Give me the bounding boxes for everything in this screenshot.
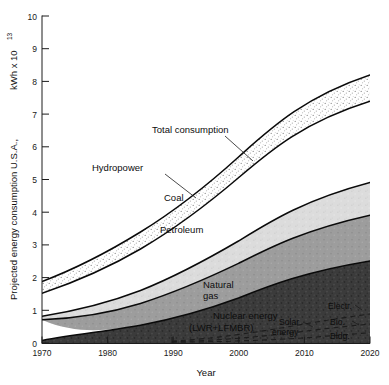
label-hydropower: Hydropower [92,162,143,173]
x-tick-label-1970: 1970 [33,348,52,358]
label-bio: Bio. [330,317,345,327]
x-tick-labels: 1970 1980 1990 2000 2010 2020 [33,348,380,358]
y-axis-units: kWh x 10 [8,50,19,90]
y-axis-title: Projected energy consumption U.S.A., [8,139,19,300]
x-tick-label-1980: 1980 [98,348,117,358]
label-electr: Electr. [328,301,352,311]
x-axis-title: Year [196,367,215,378]
y-tick-label-6: 6 [32,142,37,152]
y-tick-labels: 10 9 8 7 6 5 4 3 2 1 0 [28,12,38,349]
y-tick-label-5: 5 [32,175,37,185]
label-solar-1: Solar [279,317,299,327]
label-solar-2: energy [272,327,299,337]
label-total-consumption: Total consumption [152,124,229,135]
y-tick-label-1: 1 [32,306,37,316]
y-tick-label-2: 2 [32,273,37,283]
label-coal: Coal [164,192,184,203]
x-tick-label-2000: 2000 [229,348,248,358]
y-tick-label-9: 9 [32,44,37,54]
x-tick-label-2010: 2010 [295,348,314,358]
label-bldg: Bldg. [330,331,350,341]
chart-canvas: 10 9 8 7 6 5 4 3 2 1 0 1970 1980 1990 20… [0,0,389,385]
y-axis-title-group: Projected energy consumption U.S.A., kWh… [6,32,19,300]
y-tick-label-7: 7 [32,110,37,120]
label-nuclear-1: Nuclear energy [213,310,278,321]
y-tick-label-8: 8 [32,77,37,87]
label-natural-gas-2: gas [203,290,219,301]
y-tick-label-3: 3 [32,240,37,250]
y-tick-label-4: 4 [32,208,37,218]
energy-projection-figure: 10 9 8 7 6 5 4 3 2 1 0 1970 1980 1990 20… [0,0,389,385]
y-tick-label-10: 10 [28,12,38,22]
y-tick-label-0: 0 [32,339,37,349]
y-axis-exponent: 13 [6,32,13,40]
label-petroleum: Petroleum [160,224,203,235]
x-tick-label-2020: 2020 [361,348,380,358]
stacked-areas [42,75,370,345]
label-nuclear-2: (LWR+LFMBR) [189,322,253,333]
label-natural-gas-1: Natural [203,279,234,290]
x-tick-label-1990: 1990 [164,348,183,358]
